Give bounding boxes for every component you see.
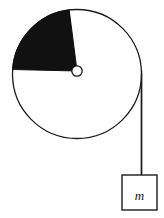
figure-container: m: [0, 0, 164, 218]
axle-hub: [72, 66, 82, 76]
physics-diagram: m: [0, 0, 164, 218]
mass-label: m: [135, 188, 144, 203]
